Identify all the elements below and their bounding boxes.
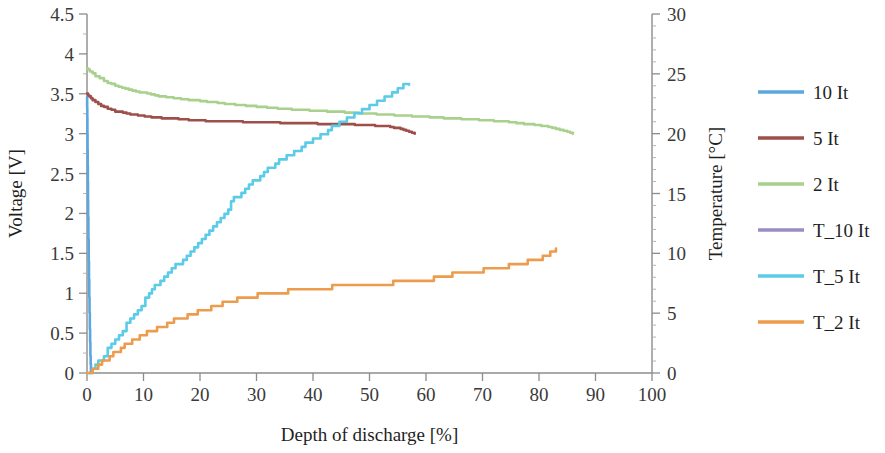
y-tick-label-right: 10 bbox=[667, 243, 686, 264]
y-tick-label-left: 1.5 bbox=[50, 243, 74, 264]
y-tick-label-right: 15 bbox=[667, 184, 686, 205]
x-tick-label: 70 bbox=[473, 384, 492, 405]
legend-label-10-it: 10 It bbox=[813, 82, 849, 103]
legend-label-t-10-it: T_10 It bbox=[813, 220, 870, 241]
x-tick-label: 60 bbox=[417, 384, 436, 405]
x-tick-label: 40 bbox=[304, 384, 323, 405]
legend-label-5-it: 5 It bbox=[813, 128, 840, 149]
y-tick-label-left: 4 bbox=[65, 44, 75, 65]
y-tick-label-left: 2 bbox=[65, 203, 75, 224]
x-tick-label: 10 bbox=[134, 384, 153, 405]
x-tick-label: 80 bbox=[530, 384, 549, 405]
series-line-t-2-it bbox=[87, 249, 556, 373]
y-tick-label-right: 5 bbox=[667, 303, 677, 324]
y-tick-label-left: 4.5 bbox=[50, 4, 74, 25]
series-line-t-5-it bbox=[87, 84, 409, 373]
y-axis-title-left: Voltage [V] bbox=[5, 149, 26, 238]
y-tick-label-left: 0 bbox=[65, 363, 75, 384]
legend-label-t-5-it: T_5 It bbox=[813, 266, 861, 287]
x-tick-label: 0 bbox=[82, 384, 92, 405]
y-tick-label-left: 0.5 bbox=[50, 323, 74, 344]
line-chart: 010203040506070809010000.511.522.533.544… bbox=[0, 0, 885, 453]
x-tick-label: 20 bbox=[191, 384, 210, 405]
x-tick-label: 90 bbox=[586, 384, 605, 405]
series-layer bbox=[87, 69, 573, 373]
chart-legend: 10 It5 It2 ItT_10 ItT_5 ItT_2 It bbox=[758, 82, 870, 333]
labels-layer: 010203040506070809010000.511.522.533.544… bbox=[5, 4, 726, 445]
y-tick-label-left: 3.5 bbox=[50, 84, 74, 105]
x-tick-label: 30 bbox=[247, 384, 266, 405]
y-tick-label-right: 20 bbox=[667, 124, 686, 145]
legend-label-t-2-it: T_2 It bbox=[813, 312, 861, 333]
y-tick-label-right: 0 bbox=[667, 363, 677, 384]
x-axis-title: Depth of discharge [%] bbox=[281, 424, 458, 445]
x-tick-label: 100 bbox=[638, 384, 667, 405]
y-tick-label-right: 30 bbox=[667, 4, 686, 25]
legend-label-2-it: 2 It bbox=[813, 174, 840, 195]
chart-container: 010203040506070809010000.511.522.533.544… bbox=[0, 0, 885, 453]
y-tick-label-left: 3 bbox=[65, 124, 75, 145]
x-tick-label: 50 bbox=[360, 384, 379, 405]
y-tick-label-right: 25 bbox=[667, 64, 686, 85]
y-axis-title-right: Temperature [°C] bbox=[705, 127, 726, 260]
y-tick-label-left: 2.5 bbox=[50, 164, 74, 185]
y-tick-label-left: 1 bbox=[65, 283, 75, 304]
